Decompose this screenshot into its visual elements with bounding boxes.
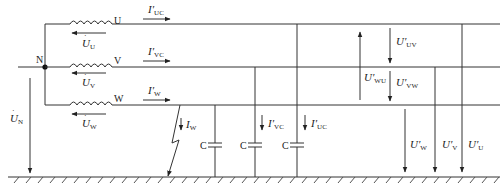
voltage-v-ground-label: U′V — [442, 138, 457, 152]
cap-w-label: C — [200, 140, 207, 151]
circuit-diagram: N U V W UU · UV · UW · UN · I′UC I′VC I′… — [0, 0, 500, 194]
cap-u-current-label: I′UC — [310, 117, 327, 131]
voltage-u-ground-label: U′U — [468, 138, 483, 152]
voltage-w-ground-label: U′W — [410, 138, 427, 152]
fault-lightning-icon — [168, 105, 180, 176]
voltage-uv-label: U′UV — [396, 35, 416, 49]
label-n: N — [36, 54, 43, 65]
dot-accent: · — [84, 70, 87, 79]
cap-u-label: C — [282, 140, 289, 151]
cap-v-label: C — [240, 140, 247, 151]
voltage-wu-label: U′WU — [364, 71, 386, 85]
label-v: V — [114, 55, 122, 66]
label-w: W — [114, 93, 124, 104]
phase-v-coil-icon — [70, 64, 112, 67]
label-u: U — [114, 15, 122, 26]
current-u-label: I′UC — [147, 3, 164, 17]
voltage-vw-label: U′VW — [396, 76, 418, 90]
current-w-label: I′W — [147, 84, 161, 98]
fault-current-label: IW — [185, 118, 197, 132]
phase-u-coil-icon — [70, 21, 112, 24]
current-v-label: I′VC — [147, 45, 164, 59]
cap-v-current-label: I′VC — [267, 117, 284, 131]
dot-accent: · — [12, 106, 15, 115]
ground-hatch-icon — [14, 177, 499, 183]
dot-accent: · — [84, 111, 87, 120]
dot-accent: · — [84, 31, 87, 40]
phase-w-coil-icon — [70, 102, 112, 105]
